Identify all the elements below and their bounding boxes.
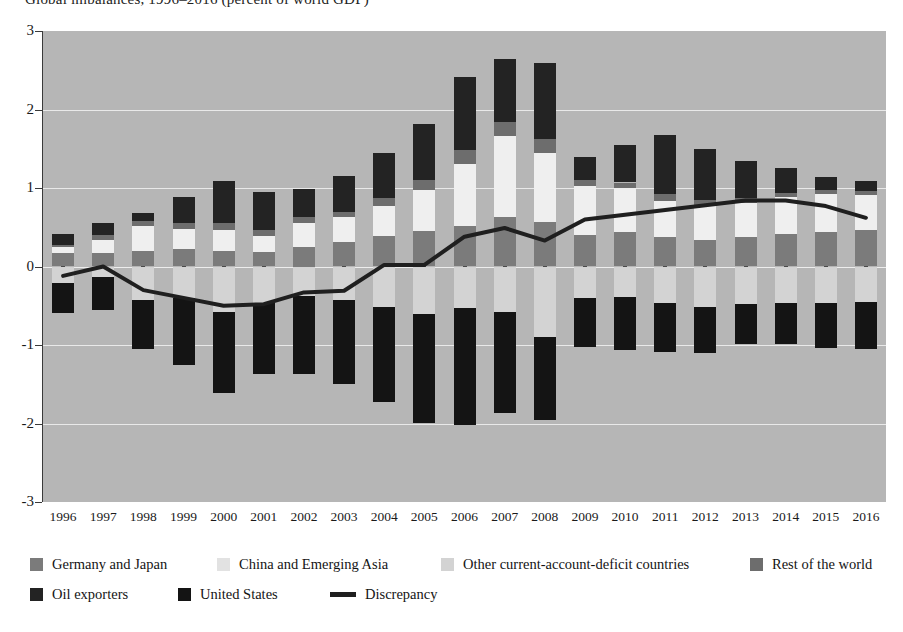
discrepancy-line-layer (43, 31, 886, 502)
x-tick-label: 2004 (371, 508, 398, 526)
legend-label: China and Emerging Asia (239, 556, 388, 572)
x-tick-label: 1996 (50, 508, 77, 526)
y-tick-mark (35, 31, 42, 32)
legend-color-swatch-icon (178, 588, 191, 601)
x-tick-label: 2011 (652, 508, 679, 526)
x-tick-label: 2012 (692, 508, 719, 526)
legend-color-swatch-icon (217, 558, 230, 571)
x-tick-label: 2001 (250, 508, 277, 526)
y-tick-mark (35, 267, 42, 268)
legend-color-swatch-icon (441, 558, 454, 571)
x-tick-label: 2003 (331, 508, 358, 526)
y-tick-label: 1 (4, 180, 34, 195)
x-tick-label: 2007 (491, 508, 518, 526)
y-tick-mark (35, 345, 42, 346)
legend-item[interactable]: Other current-account-deficit countries (441, 556, 689, 572)
y-tick-label: 3 (4, 23, 34, 38)
x-tick-label: 1998 (130, 508, 157, 526)
x-tick-label: 2000 (210, 508, 237, 526)
legend-row-1: Germany and JapanChina and Emerging Asia… (0, 552, 903, 582)
x-tick-label: 2008 (531, 508, 558, 526)
y-axis-labels: 3210-1-2-3 (0, 0, 34, 632)
y-tick-label: -2 (4, 416, 34, 431)
x-tick-label: 2005 (411, 508, 438, 526)
legend-item[interactable]: Rest of the world (750, 556, 872, 572)
legend-row-2: Oil exportersUnited StatesDiscrepancy (0, 582, 903, 612)
y-tick-mark (35, 424, 42, 425)
x-axis-labels: 1996199719981999200020012002200320042005… (43, 508, 886, 528)
x-tick-label: 2010 (612, 508, 639, 526)
y-tick-mark (35, 188, 42, 189)
legend-label: United States (200, 586, 278, 602)
y-tick-label: -1 (4, 337, 34, 352)
y-tick-mark (35, 502, 42, 503)
legend-item[interactable]: Oil exporters (30, 586, 128, 602)
x-tick-label: 1999 (170, 508, 197, 526)
legend-label: Oil exporters (52, 586, 128, 602)
legend-color-swatch-icon (750, 558, 763, 571)
legend-label: Germany and Japan (52, 556, 167, 572)
y-tick-label: 0 (4, 259, 34, 274)
y-tick-mark (35, 110, 42, 111)
discrepancy-line (43, 31, 886, 502)
x-tick-label: 1997 (90, 508, 117, 526)
legend-label: Discrepancy (365, 586, 437, 602)
x-tick-label: 2006 (451, 508, 478, 526)
chart-legend: Germany and JapanChina and Emerging Asia… (0, 552, 903, 612)
y-tick-label: -3 (4, 494, 34, 509)
legend-line-swatch-icon (330, 592, 356, 597)
legend-color-swatch-icon (30, 558, 43, 571)
legend-label: Other current-account-deficit countries (463, 556, 689, 572)
chart-root: Global imbalances, 1996–2016 (percent of… (0, 0, 903, 632)
x-tick-label: 2002 (290, 508, 317, 526)
legend-item[interactable]: China and Emerging Asia (217, 556, 388, 572)
x-tick-label: 2013 (732, 508, 759, 526)
plot-area (43, 31, 886, 502)
y-tick-label: 2 (4, 102, 34, 117)
x-tick-label: 2009 (571, 508, 598, 526)
chart-title: Global imbalances, 1996–2016 (percent of… (25, 0, 625, 7)
x-tick-label: 2016 (852, 508, 879, 526)
legend-color-swatch-icon (30, 588, 43, 601)
x-tick-label: 2014 (772, 508, 799, 526)
legend-item[interactable]: Germany and Japan (30, 556, 167, 572)
legend-label: Rest of the world (772, 556, 872, 572)
legend-item[interactable]: Discrepancy (330, 586, 437, 602)
x-tick-label: 2015 (812, 508, 839, 526)
legend-item[interactable]: United States (178, 586, 278, 602)
